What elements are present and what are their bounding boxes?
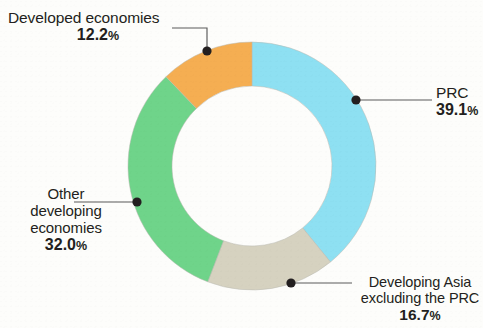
slice-label-developing-asia-value: 16.7% <box>357 306 483 323</box>
leader-dot-developing-asia <box>286 278 295 287</box>
slice-label-developed-value: 12.2% <box>8 26 188 44</box>
donut-slices-accurate <box>128 42 376 290</box>
slice-other-developing-economies[interactable] <box>128 77 223 282</box>
slice-label-other-developing: Other developing economies 32.0% <box>14 186 118 254</box>
percent-sign: % <box>430 309 441 323</box>
donut-chart: Developed economies 12.2% PRC 39.1% Deve… <box>0 0 483 328</box>
percent-sign: % <box>467 104 478 118</box>
slice-label-prc-value: 39.1% <box>436 101 478 119</box>
slice-label-developed-economies: Developed economies 12.2% <box>8 9 188 44</box>
slice-prc[interactable] <box>252 42 376 262</box>
leader-dot-other-developing <box>132 197 141 206</box>
slice-label-other-developing-line3: economies <box>14 220 118 237</box>
percent-sign: % <box>108 29 119 43</box>
slice-label-prc: PRC 39.1% <box>436 84 478 119</box>
slice-label-developing-asia-line2: excluding the PRC <box>357 290 483 306</box>
leader-dot-prc <box>351 95 360 104</box>
slice-label-other-developing-value: 32.0% <box>14 236 118 254</box>
slice-label-developing-asia: Developing Asia excluding the PRC 16.7% <box>357 274 483 324</box>
slice-label-other-developing-line2: developing <box>14 203 118 220</box>
slice-label-other-developing-line1: Other <box>14 186 118 203</box>
percent-sign: % <box>76 239 87 253</box>
slice-label-developed-name: Developed economies <box>8 9 188 26</box>
leader-dot-developed <box>202 46 211 55</box>
slice-label-developing-asia-line1: Developing Asia <box>357 274 483 290</box>
slice-label-prc-name: PRC <box>436 84 478 101</box>
